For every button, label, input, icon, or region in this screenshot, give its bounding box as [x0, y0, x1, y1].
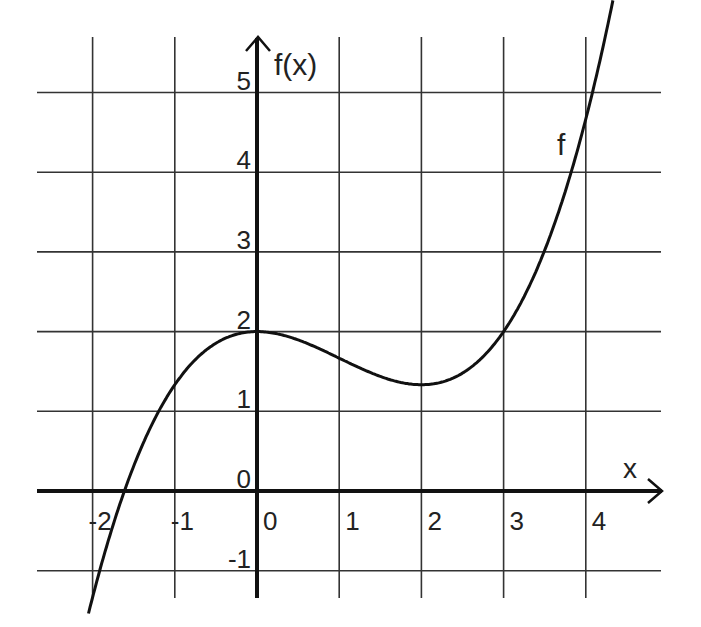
- x-tick-label: 4: [592, 506, 606, 536]
- curve-label: f: [557, 128, 566, 161]
- x-tick-label: 1: [345, 506, 359, 536]
- y-tick-label: -1: [228, 544, 251, 574]
- x-tick-label: -2: [89, 506, 112, 536]
- function-graph: -2-101234-1012345 f(x) x f: [0, 0, 701, 627]
- y-tick-label: 5: [237, 66, 251, 96]
- y-tick-label: 2: [237, 305, 251, 335]
- y-tick-label: 0: [237, 464, 251, 494]
- x-axis-label: x: [623, 453, 637, 484]
- x-tick-label: 2: [427, 506, 441, 536]
- tick-labels: -2-101234-1012345: [89, 66, 607, 574]
- x-tick-label: -1: [171, 506, 194, 536]
- x-tick-label: 0: [263, 506, 277, 536]
- y-axis-label: f(x): [274, 48, 317, 81]
- y-tick-label: 1: [237, 384, 251, 414]
- y-tick-label: 3: [237, 225, 251, 255]
- chart-canvas: -2-101234-1012345 f(x) x f: [0, 0, 701, 627]
- x-tick-label: 3: [510, 506, 524, 536]
- y-tick-label: 4: [237, 145, 251, 175]
